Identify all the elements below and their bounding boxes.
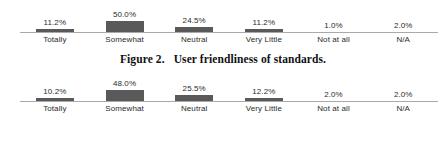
figure-caption-number: Figure 2. bbox=[120, 53, 165, 65]
category-label-not-at-all: Not at all bbox=[299, 104, 369, 113]
category-label-na: N/A bbox=[368, 104, 438, 113]
bar-value-label: 48.0% bbox=[90, 79, 160, 88]
bar-value-label: 2.0% bbox=[368, 21, 438, 30]
category-label-somewhat: Somewhat bbox=[90, 104, 160, 113]
bar-value-label: 24.5% bbox=[159, 16, 229, 25]
bar-cell-not-at-all: 2.0% bbox=[299, 69, 369, 101]
bar-value-label: 25.5% bbox=[159, 84, 229, 93]
bar-value-label: 10.2% bbox=[20, 87, 90, 96]
bar-value-label: 2.0% bbox=[299, 90, 369, 99]
category-labels-bottom: Totally Somewhat Neutral Very Little Not… bbox=[20, 104, 438, 113]
category-label-very-little: Very Little bbox=[229, 35, 299, 44]
category-label-somewhat: Somewhat bbox=[90, 35, 160, 44]
bar-cell-neutral: 24.5% bbox=[159, 0, 229, 32]
bar-value-label: 11.2% bbox=[229, 18, 299, 27]
figure-block: 11.2% 50.0% 24.5% 11.2% 1.0% bbox=[0, 0, 446, 119]
bar-cell-somewhat: 48.0% bbox=[90, 69, 160, 101]
category-label-neutral: Neutral bbox=[159, 104, 229, 113]
category-label-very-little: Very Little bbox=[229, 104, 299, 113]
category-label-not-at-all: Not at all bbox=[299, 35, 369, 44]
bar-value-label: 50.0% bbox=[90, 10, 160, 19]
plot-area-bottom: 10.2% 48.0% 25.5% 12.2% 2.0% bbox=[20, 69, 438, 119]
figure-caption: Figure 2.User friendliness of standards. bbox=[0, 50, 446, 69]
axis-line-bottom bbox=[20, 101, 438, 102]
bar-cell-somewhat: 50.0% bbox=[90, 0, 160, 32]
bar-cell-very-little: 12.2% bbox=[229, 69, 299, 101]
plot-area-top: 11.2% 50.0% 24.5% 11.2% 1.0% bbox=[20, 0, 438, 50]
bar-somewhat bbox=[106, 21, 144, 32]
category-label-totally: Totally bbox=[20, 104, 90, 113]
bar-cell-totally: 11.2% bbox=[20, 0, 90, 32]
bar-somewhat bbox=[106, 90, 144, 101]
bar-cell-na: 2.0% bbox=[368, 69, 438, 101]
bar-cell-neutral: 25.5% bbox=[159, 69, 229, 101]
category-label-na: N/A bbox=[368, 35, 438, 44]
bar-value-label: 11.2% bbox=[20, 18, 90, 27]
bar-value-label: 12.2% bbox=[229, 87, 299, 96]
bars-row-top: 11.2% 50.0% 24.5% 11.2% 1.0% bbox=[20, 0, 438, 32]
bar-cell-very-little: 11.2% bbox=[229, 0, 299, 32]
category-labels-top: Totally Somewhat Neutral Very Little Not… bbox=[20, 35, 438, 44]
bar-chart-top: 11.2% 50.0% 24.5% 11.2% 1.0% bbox=[0, 0, 446, 50]
bar-cell-not-at-all: 1.0% bbox=[299, 0, 369, 32]
axis-line-top bbox=[20, 32, 438, 33]
bar-cell-na: 2.0% bbox=[368, 0, 438, 32]
figure-caption-text: User friendliness of standards. bbox=[174, 53, 326, 65]
category-label-totally: Totally bbox=[20, 35, 90, 44]
bar-value-label: 1.0% bbox=[299, 21, 369, 30]
bars-row-bottom: 10.2% 48.0% 25.5% 12.2% 2.0% bbox=[20, 69, 438, 101]
bar-cell-totally: 10.2% bbox=[20, 69, 90, 101]
bar-chart-bottom: 10.2% 48.0% 25.5% 12.2% 2.0% bbox=[0, 69, 446, 119]
bar-value-label: 2.0% bbox=[368, 90, 438, 99]
category-label-neutral: Neutral bbox=[159, 35, 229, 44]
